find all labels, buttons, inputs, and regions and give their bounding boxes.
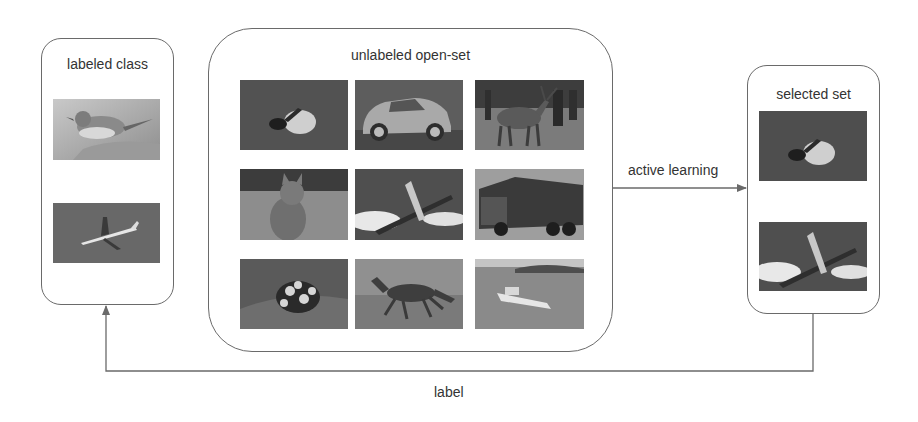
ship-icon xyxy=(475,259,584,329)
selected-image-bird xyxy=(759,111,867,181)
unlabeled-image-truck xyxy=(475,169,584,240)
bird-in-water-icon xyxy=(240,80,348,150)
airplane-icon xyxy=(53,203,160,263)
selected-image-airplane xyxy=(759,222,867,291)
bird-in-water-icon xyxy=(759,111,867,181)
unlabeled-image-deer xyxy=(475,80,584,150)
cat-icon xyxy=(240,169,348,240)
unlabeled-image-car xyxy=(355,80,463,150)
unlabeled-open-set-title: unlabeled open-set xyxy=(209,47,612,63)
bird-icon xyxy=(53,99,160,160)
horse-icon xyxy=(355,259,463,329)
deer-icon xyxy=(475,80,584,150)
unlabeled-image-cat xyxy=(240,169,348,240)
label-edge-label: label xyxy=(434,384,464,400)
airplane-icon xyxy=(355,169,463,240)
unlabeled-image-frog xyxy=(240,259,348,329)
airplane-icon xyxy=(759,222,867,291)
truck-icon xyxy=(475,169,584,240)
unlabeled-image-ship xyxy=(475,259,584,329)
selected-set-title: selected set xyxy=(748,86,879,102)
unlabeled-image-airplane xyxy=(355,169,463,240)
frog-icon xyxy=(240,259,348,329)
unlabeled-image-horse xyxy=(355,259,463,329)
labeled-image-bird xyxy=(53,99,160,160)
labeled-image-airplane xyxy=(53,203,160,263)
labeled-class-box: labeled class xyxy=(41,38,174,305)
labeled-class-title: labeled class xyxy=(42,56,173,72)
car-icon xyxy=(355,80,463,150)
unlabeled-image-bird xyxy=(240,80,348,150)
active-learning-label: active learning xyxy=(628,162,718,178)
